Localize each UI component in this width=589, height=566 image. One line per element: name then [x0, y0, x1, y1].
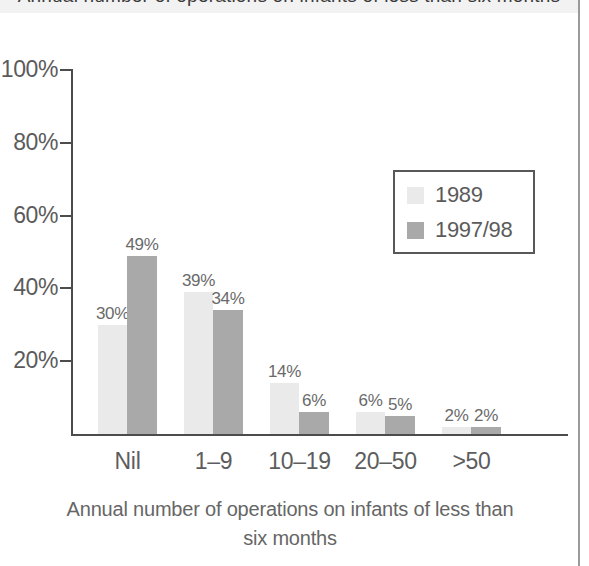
y-axis-tick	[60, 360, 73, 362]
bar-value-label: 5%	[379, 395, 421, 415]
chart-title: Annual number of operations on infants o…	[0, 0, 578, 7]
bar-value-label: 34%	[207, 289, 249, 309]
legend-swatch-icon-1997-98	[407, 222, 424, 239]
chart-figure: Annual number of operations on infants o…	[0, 0, 589, 566]
x-axis-category-label-2: 10–19	[250, 448, 349, 475]
bar-1997-98-0	[127, 256, 157, 434]
x-axis-category-label-4: >50	[422, 448, 521, 475]
bar-value-label: 39%	[178, 271, 219, 291]
bar-1989-0	[98, 325, 127, 434]
legend-label-1997-98: 1997/98	[435, 217, 512, 243]
bar-value-label: 14%	[264, 362, 305, 382]
y-axis-tick	[60, 287, 73, 289]
chart-legend: 1989 1997/98	[393, 170, 535, 254]
x-axis-category-label-1: 1–9	[164, 448, 263, 475]
legend-label-1989: 1989	[435, 182, 483, 208]
y-axis-tick-label: 60%	[0, 202, 58, 229]
y-axis-line	[71, 70, 73, 434]
x-axis-title-line-2: six months	[40, 524, 540, 553]
bar-1989-1	[184, 292, 213, 434]
bar-1997-98-1	[213, 310, 243, 434]
legend-item-1989: 1989	[407, 182, 483, 208]
bar-1989-4	[442, 427, 471, 434]
x-axis-category-label-3: 20–50	[336, 448, 435, 475]
legend-swatch-icon-1989	[407, 187, 424, 204]
y-axis-tick-label: 100%	[0, 56, 58, 83]
bar-1997-98-4	[471, 427, 501, 434]
y-axis-tick-label: 20%	[0, 347, 58, 374]
chart-title-band: Annual number of operations on infants o…	[0, 0, 578, 13]
bar-value-label: 49%	[121, 235, 163, 255]
bar-1997-98-2	[299, 412, 329, 434]
legend-item-1997-98: 1997/98	[407, 217, 512, 243]
y-axis-tick	[60, 69, 73, 71]
bar-value-label: 6%	[293, 391, 335, 411]
bar-1997-98-3	[385, 416, 415, 434]
y-axis-tick-label: 40%	[0, 274, 58, 301]
bar-1989-3	[356, 412, 385, 434]
x-axis-category-label-0: Nil	[78, 448, 177, 475]
x-axis-title: Annual number of operations on infants o…	[40, 495, 540, 553]
y-axis-tick-label: 80%	[0, 129, 58, 156]
x-axis-title-line-1: Annual number of operations on infants o…	[40, 495, 540, 524]
page-right-rule	[578, 0, 580, 566]
bar-value-label: 2%	[465, 406, 507, 426]
y-axis-tick	[60, 142, 73, 144]
x-axis-line	[71, 434, 568, 436]
y-axis-tick	[60, 215, 73, 217]
